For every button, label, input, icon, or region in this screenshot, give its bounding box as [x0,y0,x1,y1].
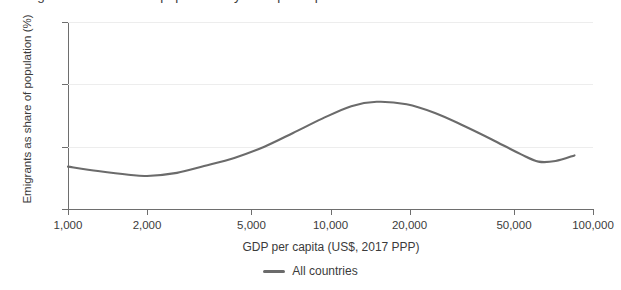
legend: All countries [0,264,621,278]
legend-label-all-countries: All countries [292,264,357,278]
legend-swatch-all-countries [263,270,285,273]
x-tick-label-1000: 1,000 [54,218,83,232]
chart-title-cropped: Emigrants as a share of population by GD… [0,0,621,4]
gridline-y-10 [68,147,593,148]
chart-container: Emigrants as a share of population by GD… [0,0,621,290]
x-tick-mark-5000 [251,209,252,215]
y-axis-title: Emigrants as share of population (%) [18,4,36,214]
y-tick-mark-20 [62,84,68,85]
y-tick-mark-10 [62,147,68,148]
chart-title: Emigrants as a share of population by GD… [0,0,621,4]
x-tick-label-100000: 100,000 [572,218,614,232]
x-tick-mark-2000 [147,209,148,215]
gridline-y-30 [68,22,593,23]
plot-area [68,22,593,209]
gridline-y-20 [68,84,593,85]
x-tick-mark-10000 [331,209,332,215]
x-tick-label-2000: 2,000 [133,218,162,232]
x-tick-mark-50000 [514,209,515,215]
x-tick-label-10000: 10,000 [313,218,348,232]
x-tick-mark-1000 [68,209,69,215]
x-tick-mark-20000 [410,209,411,215]
x-tick-label-50000: 50,000 [496,218,531,232]
x-tick-label-20000: 20,000 [392,218,427,232]
x-axis-title: GDP per capita (US$, 2017 PPP) [68,240,594,254]
x-tick-label-5000: 5,000 [237,218,266,232]
y-tick-mark-30 [62,22,68,23]
x-tick-mark-100000 [593,209,594,215]
